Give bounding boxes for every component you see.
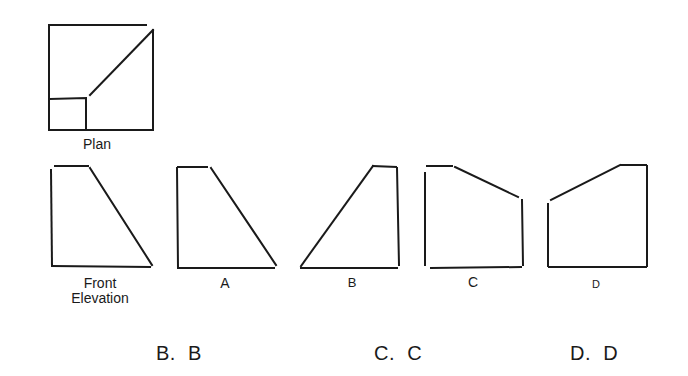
front-elevation-label: Front Elevation [55,276,145,306]
option-c-label: C [458,275,488,290]
plan-view [49,25,153,130]
option-a-shape [177,167,276,268]
plan-label: Plan [62,137,132,152]
front-label-line2: Elevation [55,291,145,306]
answer-d-value: D [603,342,618,364]
answer-d: D. D [570,342,618,365]
answer-c-value: C [407,342,422,364]
option-d-label: D [581,277,611,292]
option-c-shape [425,166,523,268]
diagram-canvas [0,0,688,376]
option-b-shape [301,166,399,268]
front-elevation-view [51,166,152,267]
answer-b-value: B [188,342,202,364]
answer-b-prefix: B. [156,342,176,364]
option-a-label: A [210,276,240,291]
answer-d-prefix: D. [570,342,591,364]
answer-c-prefix: C. [374,342,395,364]
answer-b: B. B [156,342,202,365]
front-label-line1: Front [55,276,145,291]
option-b-label: B [337,275,367,290]
option-d-shape [548,165,647,267]
answer-c: C. C [374,342,422,365]
